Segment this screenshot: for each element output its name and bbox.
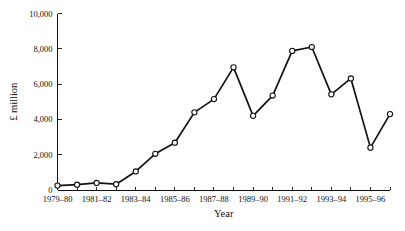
data-point-marker[interactable]: [133, 169, 138, 174]
x-tick-label: 1983–84: [121, 194, 152, 204]
data-point-marker[interactable]: [55, 183, 60, 188]
y-tick-label: 2,000: [33, 150, 52, 160]
data-point-marker[interactable]: [250, 113, 255, 118]
data-point-marker[interactable]: [74, 182, 79, 187]
data-point-marker[interactable]: [153, 151, 158, 156]
x-tick-label: 1987–88: [199, 194, 229, 204]
x-tick-label: 1985–86: [160, 194, 190, 204]
data-point-marker[interactable]: [94, 180, 99, 185]
x-tick-label: 1981–82: [82, 194, 112, 204]
series-line-path: [58, 47, 391, 186]
x-tick-label: 1979–80: [43, 194, 73, 204]
data-point-marker[interactable]: [192, 110, 197, 115]
x-axis-title: Year: [214, 208, 234, 219]
data-point-marker[interactable]: [309, 44, 314, 49]
data-point-marker[interactable]: [231, 65, 236, 70]
x-tick-label: 1995–96: [356, 194, 386, 204]
data-point-marker[interactable]: [387, 112, 392, 117]
data-point-marker[interactable]: [270, 93, 275, 98]
data-point-marker[interactable]: [368, 145, 373, 150]
y-tick-label: 4,000: [33, 114, 52, 124]
x-tick-label: 1989–90: [238, 194, 268, 204]
y-tick-label: 8,000: [33, 44, 52, 54]
y-tick-label: 6,000: [33, 79, 52, 89]
data-point-marker[interactable]: [348, 76, 353, 81]
data-point-marker[interactable]: [172, 140, 177, 145]
y-axis-title: £ million: [8, 82, 19, 121]
x-tick-label: 1991–92: [277, 194, 307, 204]
data-point-marker[interactable]: [211, 97, 216, 102]
line-chart: 02,0004,0006,0008,00010,0001979–801981–8…: [0, 0, 405, 231]
y-tick-label: 10,000: [29, 9, 52, 19]
x-tick-label: 1993–94: [316, 194, 347, 204]
data-point-marker[interactable]: [114, 182, 119, 187]
data-point-marker[interactable]: [329, 92, 334, 97]
chart-figure: 02,0004,0006,0008,00010,0001979–801981–8…: [0, 0, 405, 231]
data-point-marker[interactable]: [290, 48, 295, 53]
